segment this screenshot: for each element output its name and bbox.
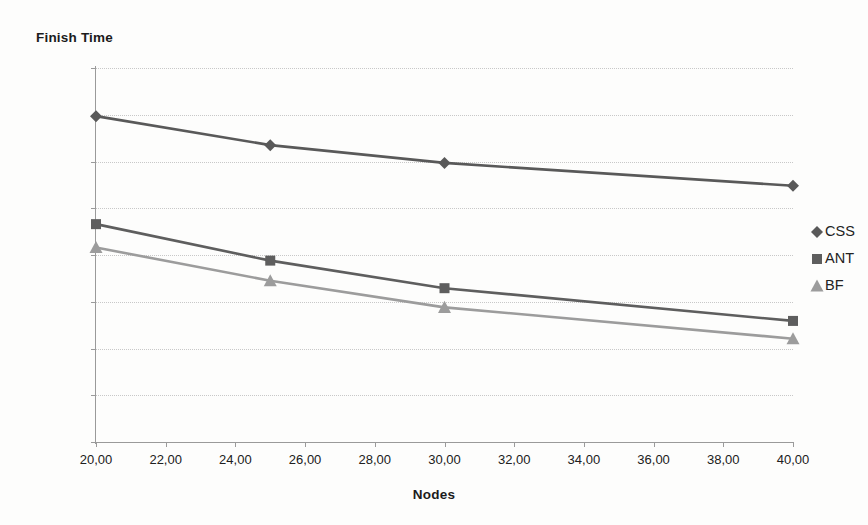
x-tick-mark (166, 442, 167, 447)
x-tick-label: 32,00 (479, 452, 549, 467)
x-tick-label: 36,00 (619, 452, 689, 467)
series-layer (96, 68, 793, 442)
x-tick-mark (235, 442, 236, 447)
plot-area (96, 68, 793, 442)
x-tick-mark (584, 442, 585, 447)
data-point-marker (265, 256, 275, 266)
x-tick-label: 26,00 (270, 452, 340, 467)
x-tick-mark (96, 442, 97, 447)
x-tick-mark (793, 442, 794, 447)
x-tick-label: 38,00 (688, 452, 758, 467)
legend-diamond-icon (810, 225, 824, 239)
legend-item-bf[interactable]: BF (810, 272, 868, 299)
x-tick-label: 20,00 (61, 452, 131, 467)
x-tick-label: 24,00 (200, 452, 270, 467)
data-point-marker (440, 283, 450, 293)
x-axis-title: Nodes (0, 487, 868, 502)
x-tick-label: 34,00 (549, 452, 619, 467)
data-point-marker (788, 316, 798, 326)
x-tick-mark (723, 442, 724, 447)
series-css (90, 110, 799, 192)
data-point-marker (91, 219, 101, 229)
legend-item-ant[interactable]: ANT (810, 245, 868, 272)
x-tick-mark (514, 442, 515, 447)
x-tick-mark (445, 442, 446, 447)
x-tick-label: 28,00 (340, 452, 410, 467)
legend-item-label: ANT (825, 251, 854, 266)
data-point-marker (90, 110, 102, 122)
x-tick-mark (305, 442, 306, 447)
x-tick-mark (375, 442, 376, 447)
x-tick-label: 22,00 (131, 452, 201, 467)
series-line (96, 116, 793, 186)
legend: CSSANTBF (810, 218, 868, 299)
data-point-marker (787, 180, 799, 192)
legend-square-icon (810, 252, 824, 266)
chart-container: Finish Time 0,00100,00200,00300,00400,00… (0, 0, 868, 525)
data-point-marker (439, 157, 451, 169)
x-tick-mark (654, 442, 655, 447)
legend-item-label: BF (825, 278, 844, 293)
legend-triangle-icon (810, 279, 824, 293)
y-axis-title: Finish Time (36, 30, 113, 45)
x-tick-label: 30,00 (410, 452, 480, 467)
data-point-marker (264, 139, 276, 151)
legend-item-label: CSS (825, 224, 855, 239)
legend-item-css[interactable]: CSS (810, 218, 868, 245)
data-point-marker (90, 241, 103, 253)
x-tick-label: 40,00 (758, 452, 828, 467)
